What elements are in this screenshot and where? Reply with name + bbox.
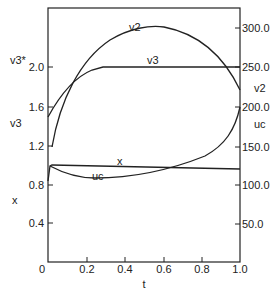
left-axis-label-v3star: v3* <box>10 54 27 66</box>
right-tick-label: 100.0 <box>242 179 270 191</box>
x-tick-label: 0.4 <box>117 263 132 275</box>
right-tick-label: 200.0 <box>242 101 270 113</box>
right-axis-label-uc: uc <box>254 118 266 130</box>
curve-label-v3: v3 <box>147 54 159 66</box>
x-tick-label: 0.2 <box>79 263 94 275</box>
right-ticks <box>235 28 240 224</box>
left-tick-label: 2.0 <box>29 61 44 73</box>
left-tick-label: 0.8 <box>29 179 44 191</box>
curve-label-x: x <box>117 155 123 167</box>
chart: 0.4 0.8 1.2 1.6 2.0 50.0 100.0 150.0 200… <box>0 0 275 292</box>
x-tick-label: 0.6 <box>156 263 171 275</box>
curve-label-v2: v2 <box>129 21 141 33</box>
left-axis-label-x: x <box>12 194 18 206</box>
left-tick-label: 1.2 <box>29 140 44 152</box>
x-axis-title: t <box>142 278 145 290</box>
bottom-ticks <box>87 257 202 262</box>
curve-label-uc: uc <box>92 170 104 182</box>
right-tick-label: 50.0 <box>242 218 263 230</box>
right-tick-label: 300.0 <box>242 22 270 34</box>
x-tick-label: 0.8 <box>194 263 209 275</box>
curve-v2 <box>52 26 240 147</box>
left-tick-label: 0.4 <box>29 217 44 229</box>
x-tick-label: 0 <box>39 263 45 275</box>
plot-frame <box>48 8 240 262</box>
x-tick-label: 1.0 <box>232 263 247 275</box>
left-tick-label: 1.6 <box>29 101 44 113</box>
curve-v3 <box>48 67 240 117</box>
right-tick-label: 150.0 <box>242 141 270 153</box>
left-axis-label-v3: v3 <box>10 117 22 129</box>
right-axis-label-v2: v2 <box>254 82 266 94</box>
right-tick-label: 250.0 <box>242 61 270 73</box>
